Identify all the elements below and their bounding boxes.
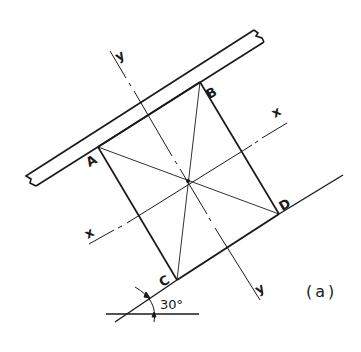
x-axis-segment <box>262 123 287 138</box>
edge-ac <box>98 147 177 280</box>
label-point-a: A <box>83 152 99 170</box>
y-axis-segment <box>129 83 131 86</box>
y-axis-segment <box>215 228 260 300</box>
y-axis-segment <box>209 218 211 221</box>
label-x-axis-top: x <box>269 103 284 120</box>
y-axis-segment <box>134 91 172 156</box>
edge-bd <box>200 82 279 214</box>
beam-break-right <box>254 30 264 42</box>
beam <box>26 30 264 186</box>
figure-caption: (a) <box>306 282 337 301</box>
label-y-axis-bottom: y <box>252 280 267 297</box>
label-x-axis-bottom: x <box>82 224 97 241</box>
beam-break-left <box>26 174 36 186</box>
angle-label: 30° <box>160 297 183 312</box>
x-axis-segment <box>255 141 258 143</box>
label-point-d: D <box>276 195 293 213</box>
x-axis-segment <box>118 226 122 228</box>
edge-cd <box>177 214 279 280</box>
angle-marker <box>135 287 156 322</box>
label-y-axis-top: y <box>112 47 127 64</box>
beam-top-edge <box>29 30 254 174</box>
label-point-c: C <box>156 272 172 290</box>
edge-ab <box>98 82 200 147</box>
centroid-point <box>186 179 190 183</box>
y-axis <box>110 51 260 300</box>
arrow-head-upper-icon <box>144 292 150 298</box>
y-axis-segment <box>175 161 177 164</box>
structural-diagram: A B C D x x y y 30° (a) <box>0 0 361 352</box>
arrow-head-lower-icon <box>152 312 156 317</box>
label-point-b: B <box>203 84 219 102</box>
